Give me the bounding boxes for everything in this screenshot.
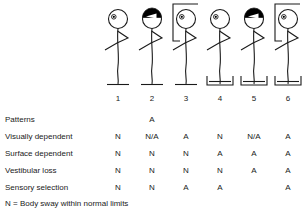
torso-and-legs [152, 29, 153, 85]
stick-figure-4 [207, 10, 233, 86]
table-cell: A [243, 166, 265, 175]
row-label: Patterns [5, 115, 35, 124]
table-cell: N [107, 132, 129, 141]
arm [207, 31, 230, 50]
row-label: Vestibular loss [5, 166, 57, 175]
arm [105, 31, 128, 50]
pupil [215, 16, 217, 18]
figure-number-3: 3 [176, 94, 196, 103]
stick-figure-3 [173, 4, 198, 85]
table-cell: N [175, 149, 197, 158]
row-label: Sensory selection [5, 183, 68, 192]
table-row: Visually dependentNN/AANN/AA [0, 132, 308, 146]
table-cell: A [175, 183, 197, 192]
figure-number-4: 4 [210, 94, 230, 103]
table-cell: N [107, 166, 129, 175]
table-cell: A [277, 149, 299, 158]
table-cell: A [175, 132, 197, 141]
head [211, 10, 230, 29]
figure-number-2: 2 [142, 94, 162, 103]
arm [241, 31, 264, 50]
figure-number-1: 1 [108, 94, 128, 103]
table-cell: N [141, 183, 163, 192]
table-row: Surface dependentNNNAAA [0, 149, 308, 163]
table-cell: N/A [243, 132, 265, 141]
torso-and-legs [118, 29, 119, 85]
table-cell: N [209, 132, 231, 141]
pupil [113, 16, 115, 18]
table-cell: A [209, 149, 231, 158]
arm [139, 31, 162, 50]
table-cell: A [277, 132, 299, 141]
head [177, 10, 196, 29]
condition-table: PatternsAVisually dependentNN/AANN/AASur… [0, 107, 308, 212]
stick-figure-2 [139, 8, 163, 85]
table-cell: A [277, 166, 299, 175]
table-cell: N [175, 166, 197, 175]
stick-figure-1 [105, 10, 129, 85]
table-footnote: N = Body sway within normal limits [5, 199, 128, 208]
row-label: Visually dependent [5, 132, 72, 141]
pupil [283, 16, 285, 18]
stick-figure-5 [241, 8, 267, 85]
torso-and-legs [288, 29, 289, 85]
table-row: Sensory selectionNNAAA [0, 183, 308, 197]
table-cell: A [243, 149, 265, 158]
row-label: Surface dependent [5, 149, 73, 158]
head [279, 10, 298, 29]
stick-figure-diagram: 123456 [0, 0, 308, 110]
table-cell: N [107, 183, 129, 192]
table-cell: A [277, 183, 299, 192]
table-cell: N [141, 166, 163, 175]
pupil [181, 16, 183, 18]
torso-and-legs [220, 29, 221, 85]
table-row: PatternsA [0, 115, 308, 129]
table-row: Vestibular lossNNNNAA [0, 166, 308, 180]
stick-figure-6 [275, 4, 301, 85]
figure-number-5: 5 [244, 94, 264, 103]
table-cell: N [209, 166, 231, 175]
table-cell: N [107, 149, 129, 158]
figure-number-6: 6 [278, 94, 298, 103]
table-cell: N [141, 149, 163, 158]
table-cell: A [209, 183, 231, 192]
torso-and-legs [254, 29, 255, 85]
table-cell: N/A [141, 132, 163, 141]
table-cell: A [141, 115, 163, 124]
head [109, 10, 128, 29]
torso-and-legs [186, 29, 187, 85]
